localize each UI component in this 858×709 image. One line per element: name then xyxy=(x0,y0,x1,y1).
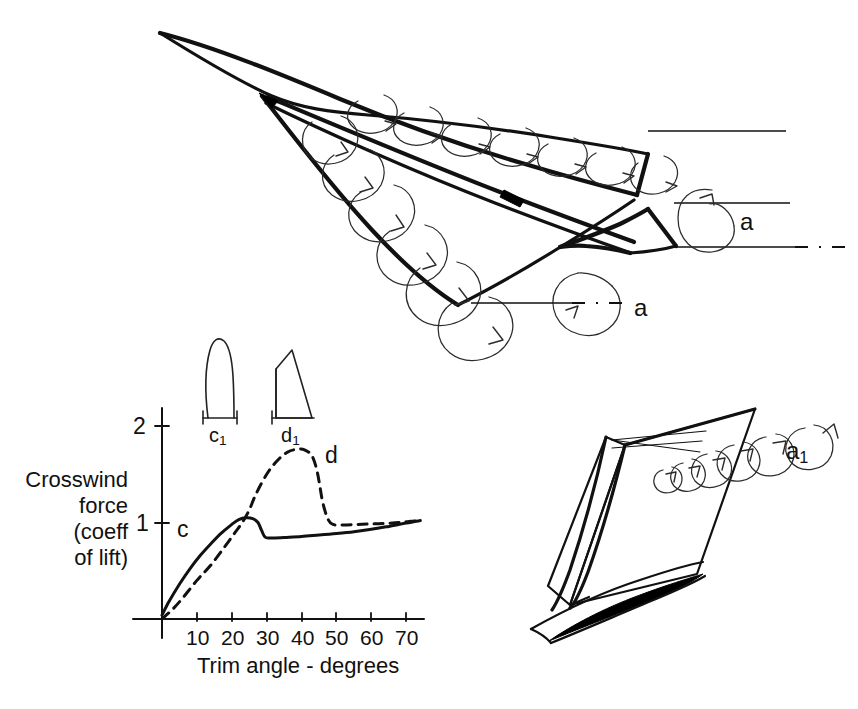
x-tick-label-30: 30 xyxy=(256,626,279,651)
trailing-fin-lower xyxy=(630,246,676,253)
inset-planform-d1 xyxy=(272,350,314,424)
inset-label-c1-base: c xyxy=(209,424,219,446)
upper-panel-leading-edge xyxy=(160,33,637,195)
free-vortex-loop-a-lower xyxy=(553,273,620,336)
inset-planform-c1 xyxy=(203,339,237,424)
y-axis-title-line-4: of lift) xyxy=(10,545,128,571)
y-axis-title-line-2: force xyxy=(10,493,128,519)
vortex-label-a-upper: a xyxy=(740,208,753,236)
inset-label-c1-subscript: 1 xyxy=(219,433,227,448)
sail-panel-outline xyxy=(570,409,755,605)
vortex-label-a1: a1 xyxy=(786,437,808,467)
free-vortex-loop-a-upper xyxy=(678,189,734,252)
inset-label-c1: c1 xyxy=(209,424,227,449)
planform-c1-outline xyxy=(206,339,234,418)
figure-canvas xyxy=(0,0,858,709)
lower-panel-trailing-edge xyxy=(458,200,634,305)
upper-panel-trailing-edge xyxy=(160,33,648,154)
curve-label-c: c xyxy=(177,516,189,543)
x-tick-label-60: 60 xyxy=(360,626,383,651)
x-axis-title: Trim angle - degrees xyxy=(197,653,399,679)
inset-label-d1-base: d xyxy=(281,424,292,446)
hull-sheerline xyxy=(531,562,703,629)
y-axis-title-line-1: Crosswind xyxy=(10,467,128,493)
x-tick-label-20: 20 xyxy=(221,626,244,651)
vortex-coil-upper xyxy=(348,95,678,194)
y-axis-title-line-3: (coeff xyxy=(10,519,128,545)
series-curve-d xyxy=(162,449,420,619)
x-tick-label-50: 50 xyxy=(325,626,348,651)
spine-kink-mark xyxy=(500,190,524,207)
vortex-label-a1-subscript: 1 xyxy=(799,448,808,466)
inset-label-d1-subscript: 1 xyxy=(292,433,300,448)
trailing-fin-edge xyxy=(648,209,676,246)
sail-head-edge xyxy=(625,409,755,445)
curve-label-d: d xyxy=(325,442,338,469)
upper-panel-tip-edge xyxy=(637,154,648,195)
planform-d1-outline xyxy=(276,350,312,418)
vortex-label-a1-base: a xyxy=(786,437,799,464)
delta-sail-vortex-top-view xyxy=(160,33,848,361)
series-curve-c xyxy=(162,518,420,615)
x-tick-label-70: 70 xyxy=(395,626,418,651)
y-axis-title: Crosswind force (coeff of lift) xyxy=(10,467,128,571)
inset-label-d1: d1 xyxy=(281,424,300,449)
y-tick-label-2: 2 xyxy=(133,413,146,440)
figure-root: Crosswind force (coeff of lift) 2 1 10 2… xyxy=(0,0,858,709)
x-tick-label-40: 40 xyxy=(291,626,314,651)
y-tick-label-1: 1 xyxy=(136,510,149,537)
hull-bow-line xyxy=(531,629,551,643)
trailing-fin-inner xyxy=(560,246,630,253)
x-tick-label-10: 10 xyxy=(186,626,209,651)
vortex-label-a-lower: a xyxy=(634,294,647,322)
